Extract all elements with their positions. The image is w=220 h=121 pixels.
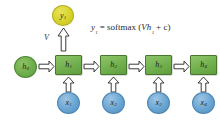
weight-label-v: V bbox=[44, 33, 49, 42]
output-node-y1: y1 bbox=[52, 5, 74, 26]
arrow-h3-to-h4 bbox=[173, 60, 190, 73]
formula-lhs-subscript: 1 bbox=[95, 30, 98, 35]
hidden-state-h4-subscript: 4 bbox=[205, 64, 208, 69]
arrow-h1-to-h2 bbox=[83, 60, 100, 73]
arrow-x3-to-h3 bbox=[152, 76, 165, 93]
formula-hidden: h bbox=[147, 22, 152, 32]
rnn-unrolled-diagram: y1 V y1 = softmax (Vh1 + c) h0 h1 h2 bbox=[0, 0, 220, 121]
initial-state-h0: h0 bbox=[14, 56, 37, 78]
formula-bias: + c) bbox=[154, 22, 171, 32]
initial-state-h0-subscript: 0 bbox=[27, 66, 30, 71]
input-node-x1-subscript: 1 bbox=[69, 102, 72, 107]
hidden-state-h1-subscript: 1 bbox=[70, 64, 73, 69]
arrow-h2-to-h3 bbox=[128, 60, 145, 73]
hidden-state-h3-subscript: 3 bbox=[160, 64, 163, 69]
hidden-state-h1: h1 bbox=[55, 55, 82, 75]
input-node-x3-subscript: 3 bbox=[159, 102, 162, 107]
arrow-h0-to-h1 bbox=[38, 60, 55, 73]
arrow-x4-to-h4 bbox=[197, 76, 210, 93]
hidden-state-h2-subscript: 2 bbox=[115, 64, 118, 69]
output-node-y1-subscript: 1 bbox=[64, 15, 67, 20]
hidden-state-h4: h4 bbox=[190, 55, 217, 75]
arrow-x1-to-h1 bbox=[62, 76, 75, 93]
input-node-x1: x1 bbox=[57, 92, 80, 114]
hidden-state-h3: h3 bbox=[145, 55, 172, 75]
softmax-formula: y1 = softmax (Vh1 + c) bbox=[91, 22, 170, 34]
input-node-x4: x4 bbox=[192, 92, 215, 114]
formula-eq: = softmax ( bbox=[98, 22, 142, 32]
formula-hidden-subscript: 1 bbox=[152, 30, 155, 35]
input-node-x3: x3 bbox=[147, 92, 170, 114]
input-node-x4-subscript: 4 bbox=[204, 102, 207, 107]
arrow-x2-to-h2 bbox=[107, 76, 120, 93]
hidden-state-h2: h2 bbox=[100, 55, 127, 75]
input-node-x2: x2 bbox=[102, 92, 125, 114]
arrow-h1-to-y1 bbox=[57, 27, 70, 52]
input-node-x2-subscript: 2 bbox=[114, 102, 117, 107]
